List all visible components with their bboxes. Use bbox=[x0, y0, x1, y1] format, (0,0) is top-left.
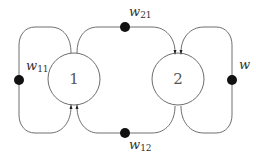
weight-dot-w11 bbox=[14, 75, 24, 85]
weight-dot-w22 bbox=[227, 75, 237, 85]
weight-label-w22: w bbox=[239, 57, 250, 72]
weight-label-w11: w11 bbox=[26, 58, 49, 74]
node-1-label: 1 bbox=[69, 70, 79, 88]
weight-label-w12: w12 bbox=[129, 137, 152, 153]
weight-label-w21: w21 bbox=[129, 4, 152, 20]
weight-dot-w21 bbox=[120, 22, 130, 32]
graph-diagram: 1 2 w11 w21 w12 w bbox=[0, 0, 256, 155]
node-2-label: 2 bbox=[173, 70, 183, 88]
